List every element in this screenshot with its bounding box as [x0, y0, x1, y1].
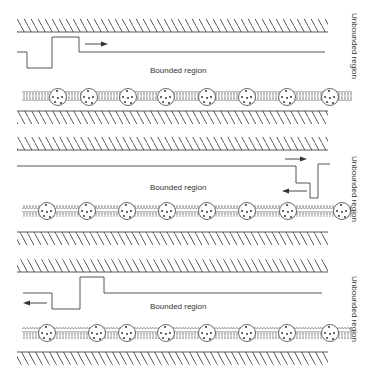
wave-pulse: [17, 164, 330, 198]
bottom-wall-hatch: [17, 111, 328, 124]
top-wall-hatch: [17, 137, 328, 150]
bounded-region-label: Bounded region: [150, 183, 207, 192]
bottom-wall-hatch: [17, 352, 328, 365]
panel-2: Bounded region Unbounded region: [17, 137, 359, 245]
arrow-left-icon: [282, 189, 307, 194]
top-wall-hatch: [17, 19, 328, 32]
unbounded-region-label: Unbounded region: [350, 276, 359, 342]
bottom-wall-hatch: [17, 232, 328, 245]
panel-3: Bounded region Unbounded region: [17, 259, 359, 365]
mass-spring-chain: [22, 89, 352, 106]
arrow-right-icon: [285, 157, 307, 162]
arrow-left-icon: [23, 301, 47, 306]
unbounded-region-label: Unbounded region: [350, 156, 359, 222]
waveguide-diagram: Bounded region Unbounded region Boun: [0, 0, 379, 377]
bounded-region-label: Bounded region: [150, 302, 207, 311]
mass-spring-chain: [22, 325, 352, 342]
panel-1: Bounded region Unbounded region: [17, 13, 359, 124]
top-wall-hatch: [17, 259, 328, 272]
unbounded-region-label: Unbounded region: [350, 13, 359, 79]
arrow-right-icon: [85, 42, 108, 47]
bounded-region-label: Bounded region: [150, 66, 207, 75]
wave-pulse: [17, 37, 325, 68]
mass-spring-chain: [22, 203, 352, 220]
